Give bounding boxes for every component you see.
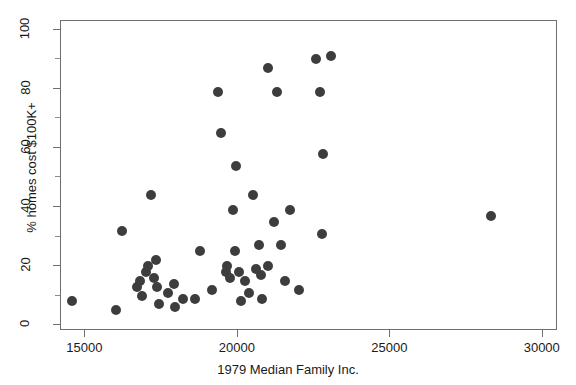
data-point bbox=[170, 302, 180, 312]
data-point bbox=[280, 276, 290, 286]
data-point bbox=[244, 288, 254, 298]
x-axis-title: 1979 Median Family Inc. bbox=[0, 362, 576, 377]
data-point bbox=[146, 190, 156, 200]
data-point bbox=[169, 279, 179, 289]
data-point bbox=[231, 161, 241, 171]
data-point bbox=[263, 63, 273, 73]
data-point bbox=[318, 149, 328, 159]
data-point bbox=[230, 246, 240, 256]
data-point bbox=[67, 296, 77, 306]
data-point bbox=[248, 190, 258, 200]
data-point bbox=[151, 255, 161, 265]
y-axis-minor-tick bbox=[55, 236, 60, 237]
data-point bbox=[154, 299, 164, 309]
y-axis-minor-tick bbox=[55, 295, 60, 296]
data-point bbox=[240, 276, 250, 286]
y-axis-tick-label: 100 bbox=[0, 21, 50, 37]
x-axis-tick bbox=[389, 330, 390, 337]
scatter-plot-figure: 02040608010015000200002500030000 % homes… bbox=[0, 0, 576, 385]
data-point bbox=[152, 282, 162, 292]
y-axis-minor-tick bbox=[55, 176, 60, 177]
x-axis-tick-label: 20000 bbox=[192, 340, 282, 355]
data-point bbox=[294, 285, 304, 295]
data-point bbox=[236, 296, 246, 306]
x-axis-tick bbox=[84, 330, 85, 337]
data-point bbox=[178, 294, 188, 304]
data-point bbox=[315, 87, 325, 97]
data-point bbox=[228, 205, 238, 215]
y-axis-minor-tick bbox=[55, 117, 60, 118]
data-point bbox=[326, 51, 336, 61]
data-point bbox=[276, 240, 286, 250]
data-point bbox=[190, 294, 200, 304]
y-axis-tick-label: 0 bbox=[0, 316, 50, 332]
x-axis-tick bbox=[542, 330, 543, 337]
data-point bbox=[256, 270, 266, 280]
x-axis-tick-label: 30000 bbox=[497, 340, 576, 355]
data-point bbox=[311, 54, 321, 64]
data-point bbox=[195, 246, 205, 256]
data-point bbox=[222, 261, 232, 271]
y-axis-tick bbox=[53, 324, 60, 325]
y-axis-tick bbox=[53, 29, 60, 30]
y-axis-tick bbox=[53, 147, 60, 148]
data-point bbox=[213, 87, 223, 97]
data-point bbox=[272, 87, 282, 97]
x-axis-tick bbox=[237, 330, 238, 337]
x-axis-tick-label: 15000 bbox=[39, 340, 129, 355]
data-point bbox=[117, 226, 127, 236]
data-point bbox=[257, 294, 267, 304]
y-axis-tick bbox=[53, 265, 60, 266]
data-point bbox=[254, 240, 264, 250]
data-points-layer bbox=[61, 21, 556, 329]
data-point bbox=[269, 217, 279, 227]
data-point bbox=[137, 291, 147, 301]
data-point bbox=[111, 305, 121, 315]
x-axis-tick-label: 25000 bbox=[344, 340, 434, 355]
data-point bbox=[207, 285, 217, 295]
plot-area bbox=[60, 20, 557, 330]
y-axis-tick bbox=[53, 88, 60, 89]
data-point bbox=[163, 288, 173, 298]
y-axis-title: % homes cost $100K+ bbox=[24, 68, 39, 268]
data-point bbox=[317, 229, 327, 239]
data-point bbox=[263, 261, 273, 271]
y-axis-minor-tick bbox=[55, 58, 60, 59]
data-point bbox=[285, 205, 295, 215]
data-point bbox=[216, 128, 226, 138]
data-point bbox=[135, 276, 145, 286]
data-point bbox=[486, 211, 496, 221]
y-axis-tick bbox=[53, 206, 60, 207]
